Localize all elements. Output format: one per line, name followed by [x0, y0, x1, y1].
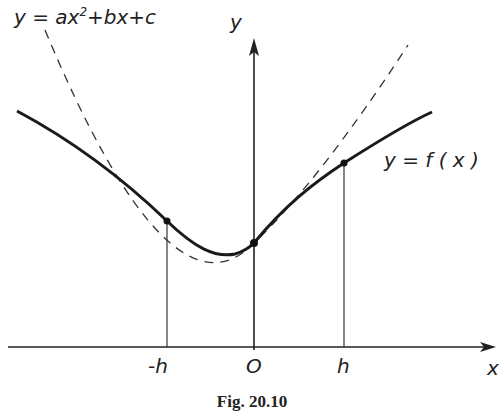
y-axis-label: y	[230, 12, 242, 32]
f-label: y = f ( x )	[384, 150, 479, 170]
parabola-label: y = ax2+bx+c	[14, 6, 156, 27]
tick-label-minus-h: -h	[148, 356, 168, 376]
figure-caption: Fig. 20.10	[0, 392, 504, 412]
parabola-curve	[45, 30, 408, 263]
tick-label-h: h	[337, 356, 350, 376]
point-h	[341, 160, 348, 167]
f-curve	[17, 111, 432, 255]
diagram-canvas	[0, 0, 504, 412]
point-zero	[250, 239, 258, 247]
x-axis-label: x	[487, 358, 499, 378]
point-minus-h	[164, 218, 171, 225]
tick-label-origin: O	[246, 356, 262, 376]
